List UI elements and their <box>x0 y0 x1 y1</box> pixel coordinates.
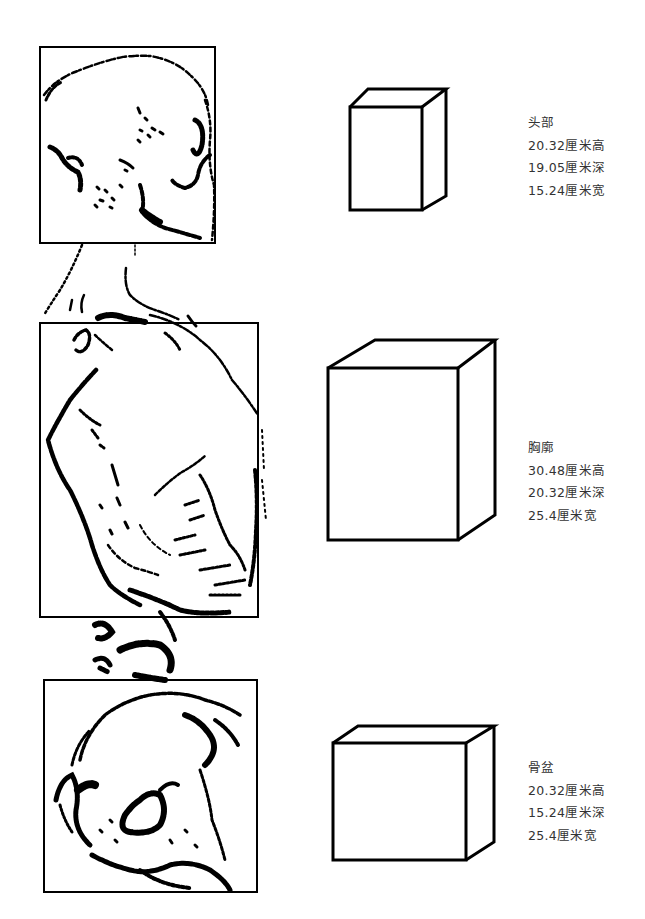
head-width: 15.24厘米宽 <box>528 180 605 203</box>
head-box <box>350 89 446 210</box>
head-depth: 19.05厘米深 <box>528 157 605 180</box>
pelvis-title: 骨盆 <box>528 757 605 780</box>
pelvis-box <box>333 726 494 860</box>
head-box-top-face <box>350 89 446 107</box>
pelvis-box-top-face <box>333 726 494 743</box>
pelvis-box-front-face <box>333 743 466 860</box>
head-sketch <box>40 47 215 243</box>
neck-sketch <box>44 245 196 326</box>
chest-width: 25.4厘米宽 <box>528 505 605 528</box>
pelvis-width: 25.4厘米宽 <box>528 825 605 848</box>
pelvis-dimensions-label: 骨盆 20.32厘米高 15.24厘米深 25.4厘米宽 <box>528 757 605 847</box>
head-height: 20.32厘米高 <box>528 135 605 158</box>
chest-height: 30.48厘米高 <box>528 460 605 483</box>
chest-box <box>328 340 495 540</box>
chest-box-front-face <box>328 368 458 540</box>
chest-dimensions-label: 胸廓 30.48厘米高 20.32厘米深 25.4厘米宽 <box>528 437 605 527</box>
head-title: 头部 <box>528 112 605 135</box>
head-box-side-face <box>422 89 446 210</box>
chest-depth: 20.32厘米深 <box>528 482 605 505</box>
pelvis-box-side-face <box>466 726 494 860</box>
pelvis-height: 20.32厘米高 <box>528 780 605 803</box>
chest-box-top-face <box>328 340 495 368</box>
spine-sketch <box>95 612 175 680</box>
chest-title: 胸廓 <box>528 437 605 460</box>
pelvis-sketch <box>44 680 257 892</box>
pelvis-depth: 15.24厘米深 <box>528 802 605 825</box>
head-box-front-face <box>350 107 422 210</box>
chest-box-side-face <box>458 340 495 540</box>
head-dimensions-label: 头部 20.32厘米高 19.05厘米深 15.24厘米宽 <box>528 112 605 202</box>
chest-sketch <box>40 315 266 617</box>
